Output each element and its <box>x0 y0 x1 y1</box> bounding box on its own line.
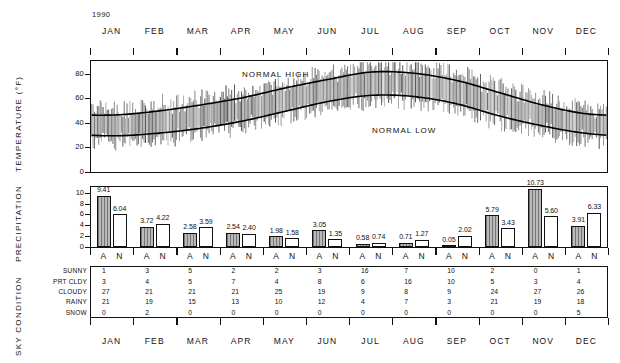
month-axis-header: JANFEBMARAPRMAYJUNJULAUGSEPOCTNOVDEC <box>0 26 620 48</box>
axis-tick <box>176 248 177 255</box>
sky-cell-prt-cldy-jun: 8 <box>318 278 361 285</box>
month-axis-footer: JANFEBMARAPRMAYJUNJULAUGSEPOCTNOVDEC <box>0 336 620 352</box>
axis-tick <box>392 318 393 325</box>
axis-tick <box>90 318 91 325</box>
axis-tick <box>220 318 221 325</box>
axis-tick <box>479 48 480 55</box>
axis-tick <box>565 248 566 255</box>
precipitation-value-labels-layer: 9.416.043.724.222.583.592.542.401.981.58… <box>90 186 608 248</box>
sky-condition-x-axis-ticks <box>90 318 608 325</box>
precipitation-tick-label: 2 <box>62 231 84 240</box>
axis-tick <box>306 318 307 325</box>
sky-cell-sunny-apr: 2 <box>232 267 275 274</box>
sky-cell-sunny-dec: 1 <box>577 267 620 274</box>
sky-cell-snow-jul: 0 <box>361 309 404 316</box>
axis-tick <box>133 318 134 325</box>
axis-tick <box>565 48 566 55</box>
sky-cell-rainy-aug: 7 <box>404 298 447 305</box>
axis-tick <box>263 48 264 55</box>
sky-cell-sunny-may: 2 <box>275 267 318 274</box>
sky-cell-prt-cldy-feb: 4 <box>145 278 188 285</box>
axis-tick <box>263 318 264 325</box>
precip-bar-normal-may-value: 1.58 <box>277 229 307 236</box>
axis-tick <box>349 48 350 55</box>
sky-cell-prt-cldy-jul: 6 <box>361 278 404 285</box>
precip-bar-normal-oct-value: 3.43 <box>493 219 523 226</box>
sky-cell-prt-cldy-aug: 16 <box>404 278 447 285</box>
sky-cell-prt-cldy-mar: 5 <box>188 278 231 285</box>
sky-cell-rainy-apr: 13 <box>232 298 275 305</box>
axis-tick <box>435 248 436 255</box>
precip-bar-actual-jun-value: 3.05 <box>304 221 334 228</box>
sky-cell-sunny-aug: 7 <box>404 267 447 274</box>
axis-tick <box>349 318 350 325</box>
month-label-bottom-dec: DEC <box>556 336 616 346</box>
sky-cell-snow-oct: 0 <box>491 309 534 316</box>
axis-tick <box>435 48 436 55</box>
sky-cell-snow-jan: 0 <box>102 309 145 316</box>
temperature-tick-label: 60 <box>62 93 84 102</box>
year-label: 1990 <box>92 10 110 19</box>
axis-tick <box>522 48 523 55</box>
temperature-plot <box>91 61 607 172</box>
axis-tick <box>306 48 307 55</box>
sky-cell-prt-cldy-apr: 7 <box>232 278 275 285</box>
precipitation-tick-label: 4 <box>62 220 84 229</box>
precip-bar-actual-jan-value: 9.41 <box>89 186 119 193</box>
sky-cell-rainy-jun: 12 <box>318 298 361 305</box>
axis-tick <box>263 248 264 255</box>
sky-cell-prt-cldy-sep: 10 <box>447 278 490 285</box>
axis-tick <box>306 248 307 255</box>
precip-bar-actual-nov-value: 10.73 <box>520 179 550 186</box>
sky-row-label-sunny: SUNNY <box>63 267 87 274</box>
month-axis-header-ticks <box>90 48 608 55</box>
sky-cell-cloudy-sep: 9 <box>447 288 490 295</box>
sky-row-label-rainy: RAINY <box>66 298 87 305</box>
sky-cell-cloudy-apr: 21 <box>232 288 275 295</box>
temperature-tick-label: 40 <box>62 118 84 127</box>
sky-cell-rainy-mar: 15 <box>188 298 231 305</box>
sky-cell-prt-cldy-oct: 5 <box>491 278 534 285</box>
sky-cell-sunny-jun: 3 <box>318 267 361 274</box>
sky-cell-snow-may: 0 <box>275 309 318 316</box>
sky-cell-snow-nov: 0 <box>534 309 577 316</box>
sky-cell-snow-mar: 0 <box>188 309 231 316</box>
precip-bar-normal-apr-value: 2.40 <box>234 224 264 231</box>
sky-cell-snow-jun: 0 <box>318 309 361 316</box>
sky-cell-snow-sep: 0 <box>447 309 490 316</box>
sky-cell-rainy-dec: 18 <box>577 298 620 305</box>
precip-bar-actual-oct-value: 5.79 <box>477 206 507 213</box>
normal-high-curve-label: NORMAL HIGH <box>242 70 309 79</box>
sky-row-label-snow: SNOW <box>66 309 87 316</box>
sky-cell-cloudy-jan: 27 <box>102 288 145 295</box>
axis-tick <box>479 248 480 255</box>
sky-cell-rainy-oct: 21 <box>491 298 534 305</box>
axis-tick <box>392 248 393 255</box>
precipitation-tick-label: 8 <box>62 199 84 208</box>
precipitation-tick-label: 6 <box>62 209 84 218</box>
sky-cell-cloudy-may: 25 <box>275 288 318 295</box>
sky-cell-snow-aug: 0 <box>404 309 447 316</box>
precip-bar-normal-aug-value: 1.27 <box>407 230 437 237</box>
sky-cell-prt-cldy-nov: 3 <box>534 278 577 285</box>
sky-cell-prt-cldy-may: 4 <box>275 278 318 285</box>
axis-tick <box>176 48 177 55</box>
axis-tick <box>608 248 609 255</box>
axis-tick <box>133 48 134 55</box>
sky-row-label-prt-cldy: PRT CLDY <box>53 278 87 285</box>
temperature-axis-title: TEMPERATURE (°F) <box>14 76 23 172</box>
sky-cell-sunny-feb: 3 <box>145 267 188 274</box>
temperature-tick-label: 0 <box>62 167 84 176</box>
precipitation-tick-label: 0 <box>62 242 84 251</box>
precip-bar-normal-mar-value: 3.59 <box>191 218 221 225</box>
sky-cell-sunny-sep: 10 <box>447 267 490 274</box>
temperature-chart-panel <box>90 60 608 173</box>
axis-tick <box>522 248 523 255</box>
axis-tick <box>565 318 566 325</box>
temperature-tick-label: 80 <box>62 69 84 78</box>
axis-tick <box>479 318 480 325</box>
sky-cell-sunny-mar: 5 <box>188 267 231 274</box>
sky-row-label-cloudy: CLOUDY <box>58 288 87 295</box>
sky-cell-cloudy-mar: 21 <box>188 288 231 295</box>
sky-cell-cloudy-feb: 21 <box>145 288 188 295</box>
